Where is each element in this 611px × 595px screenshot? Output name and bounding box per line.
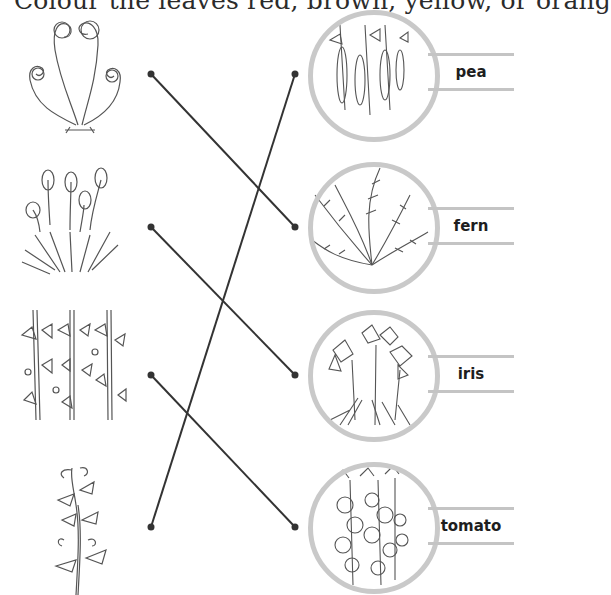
label-iris-text: iris (458, 365, 485, 383)
label-iris: iris (428, 361, 514, 387)
match-line-tomato (151, 375, 295, 527)
match-line-fern (151, 74, 295, 227)
left-dot-4[interactable] (148, 524, 155, 531)
label-tomato-text: tomato (441, 517, 502, 535)
left-dot-3[interactable] (148, 372, 155, 379)
tomato-vine-illustration (22, 310, 126, 420)
right-dot-3[interactable] (292, 372, 299, 379)
iris-bud-illustration (22, 168, 118, 274)
match-line-pea (151, 74, 295, 527)
label-pea: pea (428, 59, 514, 85)
right-dot-4[interactable] (292, 524, 299, 531)
label-fern-text: fern (454, 217, 489, 235)
label-tomato: tomato (428, 513, 514, 539)
pea-vine-illustration (56, 468, 106, 595)
tomato-image-ring (308, 462, 440, 594)
left-dot-1[interactable] (148, 71, 155, 78)
fern-fiddlehead-illustration (30, 21, 121, 133)
label-pea-text: pea (455, 63, 486, 81)
fern-image-ring (308, 162, 440, 294)
left-dot-2[interactable] (148, 224, 155, 231)
pea-image-ring (308, 10, 440, 142)
label-fern: fern (428, 213, 514, 239)
right-dot-1[interactable] (292, 71, 299, 78)
iris-image-ring (308, 310, 440, 442)
right-dot-2[interactable] (292, 224, 299, 231)
